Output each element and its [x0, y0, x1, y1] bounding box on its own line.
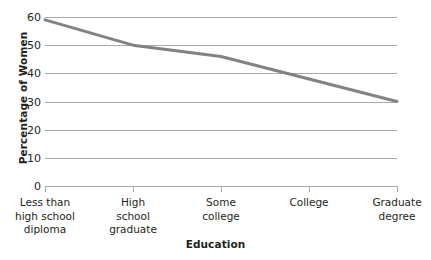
x-tick-mark — [221, 186, 222, 192]
line-chart: Percentage of Women 6050403020100 Less t… — [0, 0, 431, 260]
x-tick-label-line: degree — [345, 210, 431, 224]
data-series-line — [45, 17, 397, 186]
x-tick-label-line: graduate — [81, 223, 185, 237]
y-tick-label: 0 — [15, 181, 41, 192]
y-tick-label: 10 — [15, 152, 41, 163]
y-tick-label: 20 — [15, 124, 41, 135]
y-tick-label: 30 — [15, 96, 41, 107]
x-tick-mark — [397, 186, 398, 192]
x-tick-label: Graduatedegree — [345, 196, 431, 223]
x-tick-label-line: Graduate — [345, 196, 431, 210]
x-tick-mark — [309, 186, 310, 192]
x-axis-title: Education — [0, 238, 431, 250]
plot-area — [45, 17, 397, 186]
y-tick-label: 60 — [15, 12, 41, 23]
x-tick-mark — [45, 186, 46, 192]
y-tick-label: 50 — [15, 40, 41, 51]
x-tick-mark — [133, 186, 134, 192]
y-tick-label: 40 — [15, 68, 41, 79]
x-tick-label-line: college — [169, 210, 273, 224]
